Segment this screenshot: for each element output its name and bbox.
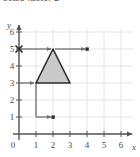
coordinate-plot: 0 1 2 3 4 5 6 1 2 3 4 5 6 y x (0, 0, 140, 157)
y-tick-label-2: 2 (10, 95, 15, 105)
x-tick-label-2: 2 (51, 140, 56, 150)
endpoint-dot-bottom (51, 115, 54, 118)
y-axis-label: y (6, 20, 11, 30)
y-axis-tick-labels: 0 1 2 3 4 5 6 (10, 27, 16, 150)
y-tick-label-0: 0 (11, 140, 16, 150)
endpoint-dot-right (85, 47, 88, 50)
x-tick-label-5: 5 (102, 140, 107, 150)
x-tick-label-4: 4 (85, 140, 90, 150)
x-tick-label-3: 3 (68, 140, 73, 150)
x-tick-label-1: 1 (34, 140, 39, 150)
y-tick-label-1: 1 (10, 112, 15, 122)
y-tick-label-3: 3 (10, 78, 15, 88)
x-axis-tick-labels: 1 2 3 4 5 6 (34, 140, 124, 150)
y-tick-label-4: 4 (10, 61, 15, 71)
x-tick-label-6: 6 (119, 140, 124, 150)
coordinate-plane-figure: scale factor 2 (0, 0, 140, 157)
x-axis-label: x (131, 142, 136, 152)
y-tick-label-5: 5 (10, 44, 15, 54)
